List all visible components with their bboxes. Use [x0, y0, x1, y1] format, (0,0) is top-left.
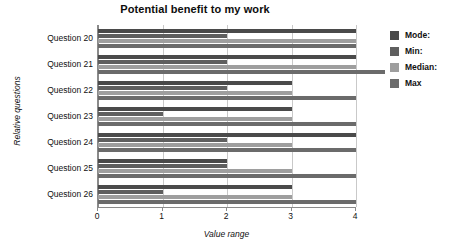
bar-mode [98, 185, 292, 189]
legend-swatch-icon [389, 62, 400, 73]
bar-median [98, 117, 292, 121]
x-axis-title: Value range [97, 229, 356, 239]
y-axis-label-question-20: Question 20 [5, 33, 93, 43]
bar-group [98, 29, 356, 48]
bar-group [98, 185, 356, 204]
bar-mode [98, 55, 356, 59]
bar-group [98, 107, 356, 126]
bar-max [98, 148, 356, 152]
x-tick-label-0: 0 [85, 211, 109, 221]
bar-group [98, 133, 356, 152]
legend-swatch-icon [389, 30, 400, 41]
plot-area [97, 25, 356, 207]
y-axis-label-question-26: Question 26 [5, 189, 93, 199]
chart-title: Potential benefit to my work [0, 3, 390, 15]
bar-min [98, 164, 227, 168]
bar-min [98, 112, 163, 116]
chart-legend: Mode:Min:Median:Max [389, 27, 459, 91]
bar-group [98, 81, 356, 100]
x-tick-label-1: 1 [150, 211, 174, 221]
bar-mode [98, 29, 356, 33]
bar-min [98, 60, 227, 64]
bar-median [98, 65, 356, 69]
chart-container: Potential benefit to my work Question 20… [0, 0, 459, 248]
legend-swatch-icon [389, 46, 400, 57]
y-axis-title: Relative questions [12, 61, 22, 161]
bar-median [98, 39, 356, 43]
bar-max [98, 200, 356, 204]
bar-mode [98, 159, 227, 163]
bar-min [98, 86, 227, 90]
y-axis-label-question-25: Question 25 [5, 163, 93, 173]
bar-mode [98, 133, 356, 137]
bar-min [98, 34, 227, 38]
legend-item[interactable]: Min: [389, 43, 459, 59]
x-tick-label-3: 3 [279, 211, 303, 221]
bar-max [98, 122, 356, 126]
legend-label: Mode: [405, 30, 430, 40]
bar-max [98, 44, 356, 48]
bar-min [98, 138, 227, 142]
legend-item[interactable]: Mode: [389, 27, 459, 43]
bar-mode [98, 81, 292, 85]
bar-max [98, 96, 356, 100]
bar-median [98, 143, 292, 147]
legend-label: Median: [405, 62, 437, 72]
legend-label: Min: [405, 46, 422, 56]
bar-max [98, 70, 385, 74]
bar-median [98, 91, 292, 95]
bar-median [98, 195, 292, 199]
bar-group [98, 159, 356, 178]
legend-label: Max [405, 78, 422, 88]
bar-max [98, 174, 356, 178]
bar-mode [98, 107, 292, 111]
gridline-x-4 [356, 25, 357, 207]
bar-group [98, 55, 356, 74]
bar-median [98, 169, 292, 173]
legend-item[interactable]: Max [389, 75, 459, 91]
x-tick-label-2: 2 [214, 211, 238, 221]
legend-item[interactable]: Median: [389, 59, 459, 75]
x-tick-label-4: 4 [343, 211, 367, 221]
legend-swatch-icon [389, 78, 400, 89]
bar-min [98, 190, 163, 194]
